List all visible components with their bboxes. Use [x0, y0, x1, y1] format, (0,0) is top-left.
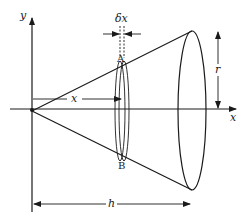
- delta-x-label: δx: [115, 12, 129, 25]
- cone-base-ellipse: [178, 31, 206, 190]
- radius-label: r: [215, 63, 221, 76]
- slice-disk: [115, 61, 129, 161]
- x-distance-label: x: [71, 92, 78, 105]
- cone-bottom-edge: [32, 111, 192, 190]
- point-a-label: A: [116, 53, 125, 64]
- apex-point: [30, 108, 34, 112]
- height-label: h: [108, 197, 115, 210]
- x-axis-label: x: [230, 111, 237, 124]
- y-axis-label: y: [19, 9, 27, 22]
- cone-diagram: y x δx A B x r h: [0, 0, 250, 218]
- point-b-label: B: [118, 160, 125, 171]
